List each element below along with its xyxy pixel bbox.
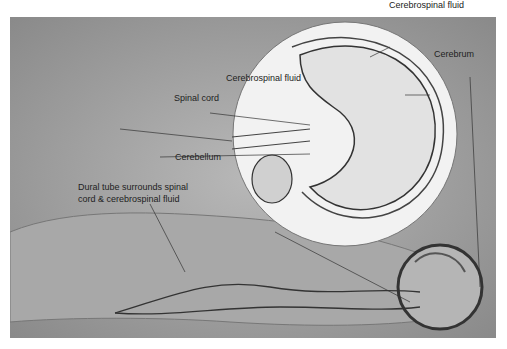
illustration-frame bbox=[10, 17, 496, 338]
label-dural-tube-line2: cord & cerebrospinal fluid bbox=[78, 194, 180, 205]
label-cerebrospinal-fluid-top: Cerebrospinal fluid bbox=[389, 0, 464, 11]
label-cerebellum: Cerebellum bbox=[175, 152, 221, 163]
label-cerebrum: Cerebrum bbox=[434, 49, 474, 60]
label-cerebrospinal-fluid-left: Cerebrospinal fluid bbox=[226, 73, 301, 84]
label-spinal-cord: Spinal cord bbox=[174, 93, 219, 104]
label-dural-tube-line1: Dural tube surrounds spinal bbox=[78, 182, 188, 193]
anatomy-illustration bbox=[10, 17, 496, 338]
